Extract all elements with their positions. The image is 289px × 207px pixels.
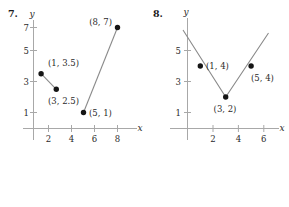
chart-8-x-axis-label: x	[279, 123, 284, 133]
chart-8-point-1	[198, 63, 203, 68]
chart-8-point-3	[248, 63, 253, 68]
chart-8-point-label-2: (3, 2)	[214, 104, 237, 114]
chart-7-y-tick-label-5: 5	[24, 46, 29, 56]
chart-7-x-tick-label-6: 6	[92, 134, 97, 144]
chart-7-point-1	[38, 71, 43, 76]
chart-7-y-tick-label-7: 7	[24, 23, 29, 33]
chart-8-point-2	[223, 94, 228, 99]
chart-7-point-label-2: (3, 2.5)	[48, 96, 79, 106]
chart-7-segment-1	[41, 74, 56, 90]
chart-8-y-tick-label-3: 3	[176, 77, 181, 87]
chart-7-point-4	[115, 25, 120, 30]
chart-7-plot: 1 3 5 7 2 4 6 8 y x (1, 3.5)	[0, 0, 145, 207]
chart-7-y-tick-label-1: 1	[24, 108, 29, 118]
chart-7-x-tick-label-2: 2	[46, 134, 51, 144]
chart-8-x-tick-label-2: 2	[210, 134, 215, 144]
chart-7-y-axis-label: y	[28, 9, 35, 19]
chart-7-y-tick-label-3: 3	[24, 77, 29, 87]
chart-7-point-label-3: (5, 1)	[89, 108, 112, 118]
chart-7-x-axis-label: x	[137, 123, 142, 133]
chart-7-x-tick-label-8: 8	[115, 134, 120, 144]
figure-page: 7. 1 3 5 7 2 4 6 8 y x	[0, 0, 289, 207]
chart-7-point-2	[54, 87, 59, 92]
chart-8-point-label-3: (5, 4)	[251, 73, 274, 83]
chart-7-point-label-1: (1, 3.5)	[48, 58, 79, 68]
chart-8-y-axis-label: y	[182, 7, 189, 17]
chart-8-x-tick-label-4: 4	[236, 134, 241, 144]
chart-8-y-tick-label-5: 5	[176, 46, 181, 56]
problem-8-panel: 8. 1 3 5 2 4 6 y x	[145, 0, 289, 207]
chart-7-point-3	[81, 110, 86, 115]
chart-8-plot: 1 3 5 2 4 6 y x (1, 4) (3, 2) (5, 4)	[145, 0, 289, 207]
chart-7-point-label-4: (8, 7)	[89, 17, 112, 27]
chart-8-x-tick-label-6: 6	[261, 134, 266, 144]
chart-7-segment-2	[84, 28, 118, 113]
chart-7-x-tick-label-4: 4	[69, 134, 74, 144]
chart-8-point-label-1: (1, 4)	[206, 61, 229, 71]
chart-8-y-tick-label-1: 1	[176, 108, 181, 118]
problem-7-panel: 7. 1 3 5 7 2 4 6 8 y x	[0, 0, 145, 207]
